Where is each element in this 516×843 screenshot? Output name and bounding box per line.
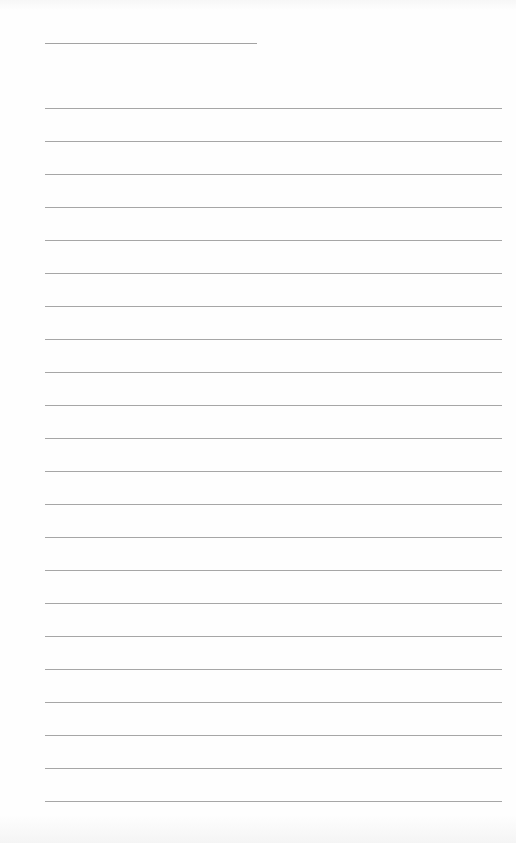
lined-page	[0, 0, 516, 843]
ruled-line	[45, 141, 502, 142]
ruled-line	[45, 438, 502, 439]
ruled-line	[45, 570, 502, 571]
title-line	[45, 43, 257, 44]
ruled-line	[45, 702, 502, 703]
ruled-line	[45, 471, 502, 472]
paper-bleed-top	[0, 0, 516, 10]
ruled-line	[45, 768, 502, 769]
ruled-line	[45, 306, 502, 307]
ruled-line	[45, 174, 502, 175]
ruled-line	[45, 603, 502, 604]
ruled-line	[45, 339, 502, 340]
paper-bleed-bottom	[0, 815, 516, 843]
ruled-line	[45, 108, 502, 109]
ruled-line	[45, 801, 502, 802]
ruled-line	[45, 636, 502, 637]
ruled-line	[45, 537, 502, 538]
ruled-line	[45, 669, 502, 670]
ruled-line	[45, 735, 502, 736]
ruled-line	[45, 405, 502, 406]
ruled-line	[45, 372, 502, 373]
ruled-line	[45, 207, 502, 208]
ruled-line	[45, 240, 502, 241]
ruled-line	[45, 273, 502, 274]
ruled-line	[45, 504, 502, 505]
